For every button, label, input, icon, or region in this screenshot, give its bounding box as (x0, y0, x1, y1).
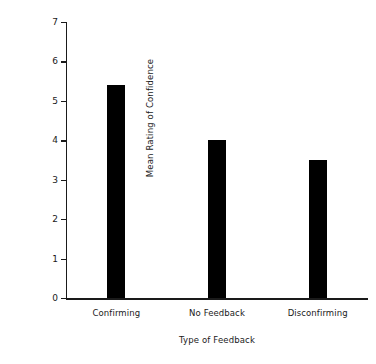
y-tick-mark (61, 219, 66, 220)
y-tick-label: 3 (52, 175, 58, 184)
y-tick-label: 6 (52, 57, 58, 66)
bar-chart: Mean Rating of Confidence 01234567 Confi… (0, 0, 376, 364)
bar (309, 160, 327, 298)
y-tick-mark (61, 22, 66, 23)
bar (107, 85, 125, 298)
y-axis-line (66, 22, 67, 299)
category-label: Confirming (93, 308, 141, 318)
y-tick-label: 2 (52, 215, 58, 224)
y-tick-label: 5 (52, 96, 58, 105)
y-tick-label: 4 (52, 136, 58, 145)
y-tick-mark (61, 259, 66, 260)
category-label: No Feedback (189, 308, 245, 318)
x-axis-title: Type of Feedback (66, 335, 368, 345)
x-axis-line (66, 298, 368, 300)
category-label: Disconfirming (288, 308, 348, 318)
y-tick-mark (61, 180, 66, 181)
y-tick-label: 7 (52, 18, 58, 27)
y-tick-mark (61, 298, 66, 299)
y-tick-mark (61, 61, 66, 62)
y-tick-label: 0 (52, 294, 58, 303)
bar (208, 140, 226, 298)
y-tick-mark (61, 101, 66, 102)
y-tick-label: 1 (52, 254, 58, 263)
y-tick-mark (61, 140, 66, 141)
plot-area: 01234567 ConfirmingNo FeedbackDisconfirm… (66, 22, 368, 299)
